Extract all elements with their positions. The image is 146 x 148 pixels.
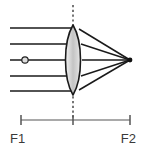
- label-f1: F1: [10, 131, 25, 146]
- biconvex-lens: [66, 25, 81, 95]
- label-f2: F2: [121, 131, 136, 146]
- optics-diagram-svg: F1 F2: [0, 0, 146, 148]
- optics-diagram-figure: F1 F2: [0, 0, 146, 148]
- focal-point-dot: [128, 58, 133, 63]
- object-point-marker: [22, 57, 28, 63]
